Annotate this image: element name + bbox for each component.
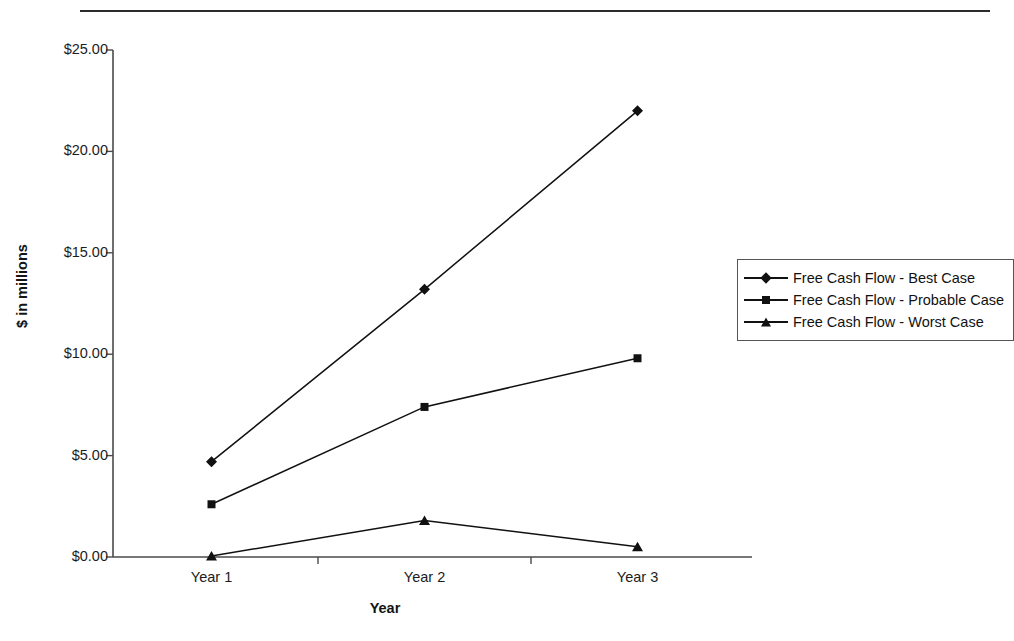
chart-series-lines	[212, 111, 638, 556]
x-axis-ticks	[318, 557, 531, 564]
legend-item-label: Free Cash Flow - Best Case	[793, 271, 975, 286]
y-axis-ticks	[106, 50, 113, 557]
chart-axes	[113, 50, 752, 557]
x-axis-tick-label: Year 3	[617, 570, 658, 585]
chart-series-markers	[206, 105, 643, 560]
legend-item[interactable]: Free Cash Flow - Worst Case	[744, 311, 1004, 333]
chart-legend: Free Cash Flow - Best CaseFree Cash Flow…	[737, 259, 1014, 341]
legend-item-label: Free Cash Flow - Probable Case	[793, 293, 1004, 308]
legend-marker-diamond-icon	[744, 270, 788, 286]
legend-item-label: Free Cash Flow - Worst Case	[793, 315, 984, 330]
legend-marker-square-icon	[744, 292, 788, 308]
y-axis-tick-label: $10.00	[64, 346, 108, 361]
y-axis-tick-label: $15.00	[64, 245, 108, 260]
x-axis-title: Year	[0, 600, 770, 616]
legend-item[interactable]: Free Cash Flow - Probable Case	[744, 289, 1004, 311]
legend-marker-triangle-icon	[744, 314, 788, 330]
y-axis-tick-label: $25.00	[64, 42, 108, 57]
y-axis-tick-label: $20.00	[64, 143, 108, 158]
legend-item[interactable]: Free Cash Flow - Best Case	[744, 267, 1004, 289]
x-axis-tick-label: Year 2	[404, 570, 445, 585]
y-axis-tick-label: $5.00	[72, 448, 108, 463]
y-axis-tick-label: $0.00	[72, 549, 108, 564]
x-axis-tick-label: Year 1	[191, 570, 232, 585]
y-axis-title: $ in millions	[14, 226, 30, 346]
